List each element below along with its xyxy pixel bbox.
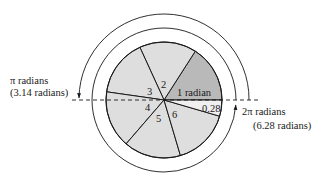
pi-label-line2: (3.14 radians) — [10, 87, 69, 99]
label-4: 4 — [145, 102, 151, 113]
two-pi-label-line2: (6.28 radians) — [253, 120, 312, 132]
label-6: 6 — [172, 109, 177, 120]
label-5: 5 — [156, 113, 161, 124]
label-1-radian: 1 radian — [177, 87, 212, 98]
radian-diagram: 1 radian 2 3 4 5 6 0.28 π radians (3.14 … — [0, 0, 323, 185]
label-3: 3 — [147, 86, 152, 97]
label-0-28: 0.28 — [202, 103, 220, 114]
pi-label-line1: π radians — [10, 75, 48, 86]
two-pi-label-line1: 2π radians — [242, 106, 286, 117]
label-2: 2 — [161, 79, 166, 90]
